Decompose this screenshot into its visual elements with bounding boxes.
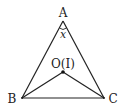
triangle-diagram: A x O(I) B C [0, 0, 128, 110]
label-angle-x: x [60, 28, 67, 41]
label-a: A [58, 6, 68, 20]
point-c [103, 97, 105, 99]
label-o-i: O(I) [51, 57, 75, 71]
segment-ob [22, 72, 63, 98]
point-b [21, 97, 23, 99]
label-c: C [108, 92, 117, 106]
segment-oc [63, 72, 104, 98]
label-b: B [8, 92, 17, 106]
